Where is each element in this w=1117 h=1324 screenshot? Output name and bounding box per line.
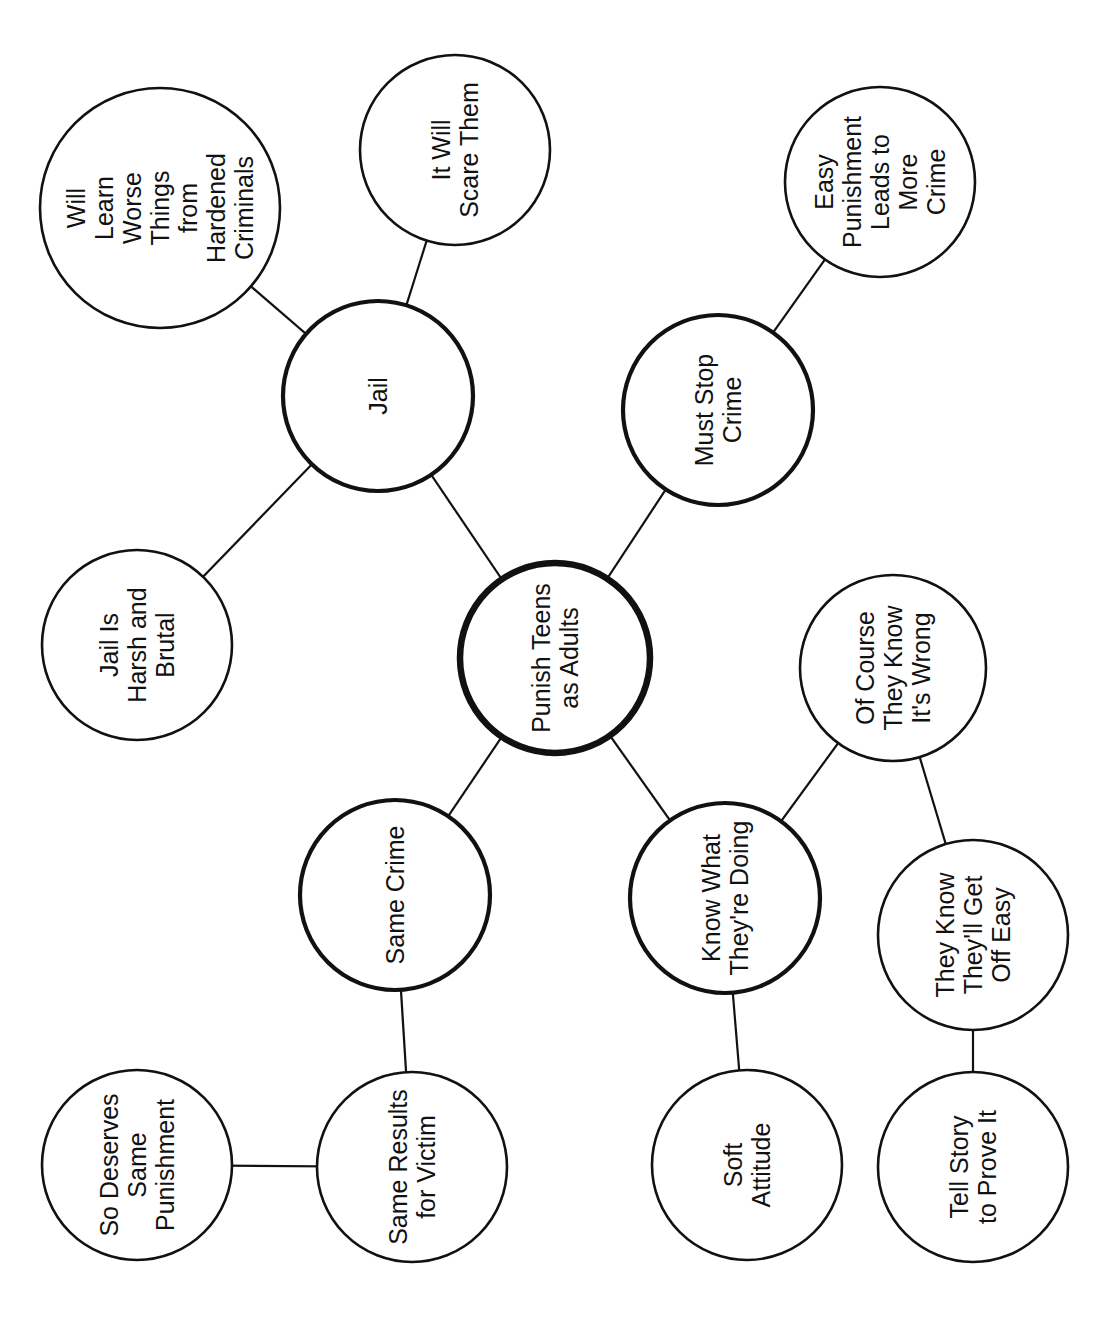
cluster-diagram: Punish Teensas AdultsJailMust StopCrimeS… [0, 0, 1117, 1324]
node-label-line: Attitude [747, 1123, 775, 1208]
node-label: Know WhatThey're Doing [697, 821, 753, 976]
node-label-line: So Deserves [95, 1093, 123, 1236]
node-label-line: to Prove It [973, 1110, 1001, 1224]
node-label-line: Jail [364, 377, 392, 415]
node-layer: Punish Teensas AdultsJailMust StopCrimeS… [40, 55, 1068, 1262]
node-so-deserves-same-punishment: So DeservesSamePunishment [42, 1070, 232, 1260]
node-label-line: Jail Is [95, 613, 123, 677]
node-label: Jail [364, 377, 392, 415]
node-label-line: Same Results [384, 1089, 412, 1245]
node-label-line: Same [123, 1132, 151, 1197]
node-label-line: Must Stop [690, 354, 718, 467]
node-label-line: from [174, 183, 202, 233]
node-label-line: Tell Story [945, 1115, 973, 1218]
node-tell-story: Tell Storyto Prove It [878, 1072, 1068, 1262]
node-label-line: They Know [879, 605, 907, 731]
node-label-line: for Victim [412, 1115, 440, 1219]
node-label-line: Things [146, 170, 174, 245]
node-label: They KnowThey'll GetOff Easy [931, 872, 1015, 998]
node-center: Punish Teensas Adults [460, 563, 650, 753]
node-must-stop-crime: Must StopCrime [623, 315, 813, 505]
node-label-line: More [894, 154, 922, 211]
node-label-line: Leads to [866, 134, 894, 230]
node-label-line: Brutal [151, 612, 179, 677]
node-jail-is-harsh: Jail IsHarsh andBrutal [42, 550, 232, 740]
node-label-line: Punishment [838, 116, 866, 248]
node-label: Of CourseThey KnowIt's Wrong [851, 605, 935, 731]
node-label-line: Will [62, 188, 90, 228]
node-label-line: as Adults [555, 607, 583, 708]
node-label-line: They're Doing [725, 821, 753, 976]
node-label: Tell Storyto Prove It [945, 1110, 1001, 1224]
node-it-will-scare-them: It WillScare Them [360, 55, 550, 245]
node-label-line: Off Easy [987, 887, 1015, 983]
node-label-line: Soft [719, 1143, 747, 1188]
node-label-line: Same Crime [381, 826, 409, 965]
node-label-line: It's Wrong [907, 612, 935, 723]
node-label-line: Of Course [851, 611, 879, 725]
node-label-line: Criminals [230, 156, 258, 260]
node-they-know-get-off-easy: They KnowThey'll GetOff Easy [878, 840, 1068, 1030]
node-label-line: Scare Them [455, 82, 483, 218]
node-same-results-for-victim: Same Resultsfor Victim [317, 1072, 507, 1262]
node-label-line: Hardened [202, 153, 230, 263]
node-will-learn-worse-things: WillLearnWorseThingsfromHardenedCriminal… [40, 88, 280, 328]
node-same-crime: Same Crime [300, 800, 490, 990]
node-label-line: They Know [931, 872, 959, 998]
node-label-line: It Will [427, 119, 455, 180]
node-soft-attitude: SoftAttitude [652, 1070, 842, 1260]
node-label-line: Punish Teens [527, 583, 555, 733]
node-label-line: Easy [810, 154, 838, 210]
node-label-line: Crime [718, 377, 746, 444]
node-label-line: Worse [118, 172, 146, 244]
node-of-course-they-know: Of CourseThey KnowIt's Wrong [800, 575, 986, 761]
node-label-line: Learn [90, 176, 118, 240]
node-know-what-theyre-doing: Know WhatThey're Doing [630, 803, 820, 993]
node-label: Same Crime [381, 826, 409, 965]
node-label-line: Harsh and [123, 587, 151, 702]
node-jail: Jail [283, 301, 473, 491]
node-label-line: They'll Get [959, 876, 987, 995]
node-easy-punishment: EasyPunishmentLeads toMoreCrime [785, 87, 975, 277]
node-label-line: Crime [922, 149, 950, 216]
node-label-line: Punishment [151, 1099, 179, 1231]
node-label-line: Know What [697, 834, 725, 962]
